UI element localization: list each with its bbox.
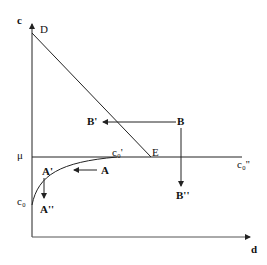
de-line (32, 33, 151, 157)
point-bdprime-label: B'' (176, 190, 189, 201)
point-b-label: B (177, 116, 184, 127)
diagram: c D B' B μ c₀' E c₀'' A' A B'' c₀ A'' d (0, 0, 267, 265)
point-e-label: E (152, 147, 159, 158)
point-aprime-label: A' (42, 166, 53, 177)
c0-prime-label: c₀' (112, 147, 123, 158)
x-axis-label: d (251, 244, 257, 255)
diagram-lines (0, 0, 267, 265)
c0-dprime-label: c₀'' (237, 159, 250, 170)
y-axis-label: c (17, 15, 22, 26)
point-bprime-label: B' (87, 116, 97, 127)
point-adprime-label: A'' (40, 204, 54, 215)
mu-label: μ (17, 150, 23, 161)
point-d-label: D (40, 24, 48, 35)
c0-label: c₀ (17, 196, 26, 207)
point-a-label: A (101, 165, 109, 176)
